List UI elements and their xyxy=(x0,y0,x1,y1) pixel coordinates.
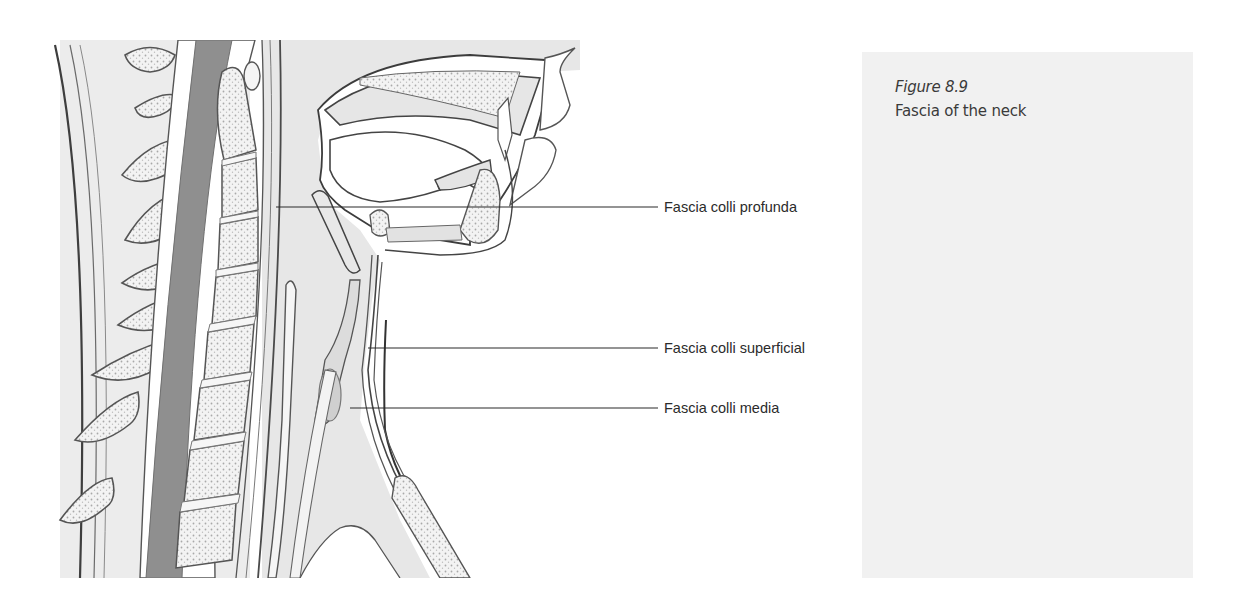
mouth-floor xyxy=(386,225,462,242)
label-fascia-colli-superficial: Fascia colli superficial xyxy=(664,341,805,356)
figure-number: Figure 8.9 xyxy=(895,78,968,96)
label-fascia-colli-profunda: Fascia colli profunda xyxy=(664,200,797,215)
figure-title: Fascia of the neck xyxy=(895,102,1026,120)
anatomy-drawing xyxy=(55,40,580,578)
figure-caption-panel: Figure 8.9 Fascia of the neck xyxy=(862,52,1193,578)
label-fascia-colli-media: Fascia colli media xyxy=(664,401,779,416)
